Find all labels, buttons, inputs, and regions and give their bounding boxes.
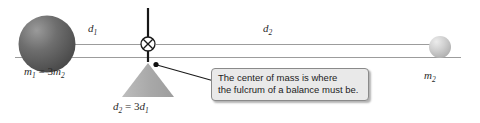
center-of-mass-symbol: [141, 37, 155, 51]
label-d2: d2: [263, 23, 272, 37]
callout-box: The center of mass is where the fulcrum …: [211, 68, 369, 101]
figure-canvas: d1 d2 m1 = 3m2 m2 d2 = 3d1 The center of…: [0, 0, 480, 123]
label-d1: d1: [88, 23, 97, 37]
label-mass-equation: m1 = 3m2: [24, 66, 65, 80]
callout-leader-line: [153, 62, 214, 81]
label-distance-equation: d2 = 3d1: [113, 101, 149, 115]
label-m2: m2: [424, 70, 436, 84]
mass-m2-sphere: [429, 36, 451, 58]
mass-m1-sphere: [19, 16, 76, 73]
diagram-graphics: [0, 0, 480, 123]
callout-text: The center of mass is where the fulcrum …: [218, 72, 363, 96]
